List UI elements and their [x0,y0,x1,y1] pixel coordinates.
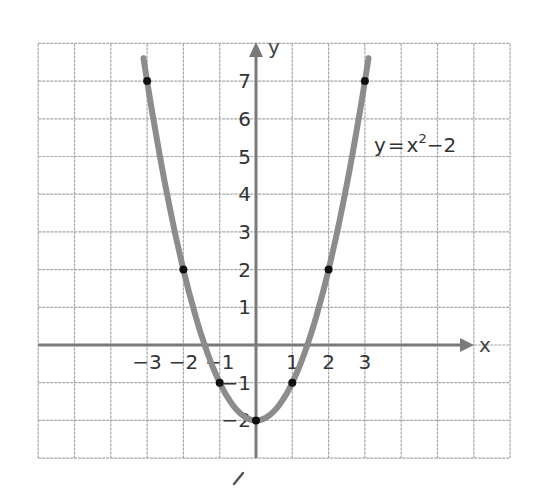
data-point [143,77,151,85]
y-tick-label: 1 [238,295,251,319]
x-axis-label: x [479,333,491,357]
y-tick-label: 2 [238,258,251,282]
data-point [361,77,369,85]
y-tick-label: 6 [238,107,251,131]
x-tick-label: 2 [322,350,335,374]
x-tick-label: 3 [359,350,372,374]
y-tick-label: 7 [238,69,251,93]
x-tick-label: −3 [132,350,161,374]
data-point [252,416,260,424]
grid-lines [38,43,510,458]
data-point [179,266,187,274]
data-point [325,266,333,274]
parabola-chart: x y −3−2−11237654321−1−2 y=x2−2 [0,0,534,490]
equation-label: y=x2−2 [374,131,456,157]
y-tick-label: 4 [238,182,251,206]
y-tick-label: 3 [238,220,251,244]
x-axis-arrow-icon [460,338,474,352]
axes: x y [38,35,491,458]
data-point [288,379,296,387]
stray-pen-mark [234,473,243,484]
y-axis-label: y [268,35,280,59]
data-point [216,379,224,387]
y-tick-label: 5 [238,145,251,169]
y-axis-arrow-icon [249,42,263,57]
x-tick-label: −2 [169,350,198,374]
